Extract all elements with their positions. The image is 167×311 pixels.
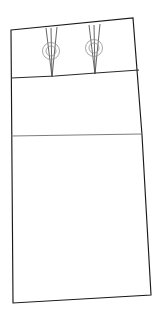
skirt-outline-path: [11, 18, 151, 303]
pattern-drawing-canvas: [0, 0, 167, 311]
pattern-svg: [0, 0, 167, 311]
